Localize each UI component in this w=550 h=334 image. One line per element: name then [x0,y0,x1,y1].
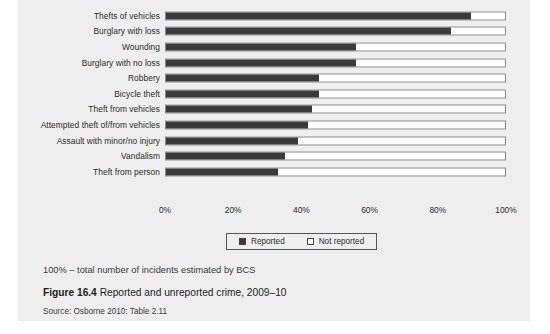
bar-row: Burglary with no loss [18,55,530,71]
bar-not-reported [165,105,506,114]
x-axis-tick-label: 20% [225,205,242,215]
bar-not-reported [165,167,506,176]
bar-reported [166,121,308,128]
bar-row: Vandalism [18,148,530,164]
bar-reported [166,137,298,144]
legend-item-not-reported: Not reported [307,237,365,246]
legend-item-reported: Reported [239,237,285,246]
category-label: Burglary with loss [93,26,160,36]
category-label: Theft from person [93,167,160,177]
x-axis-tick-label: 0% [159,205,171,215]
figure-panel: Thefts of vehiclesBurglary with lossWoun… [18,0,530,321]
figure-number: Figure 16.4 [43,287,97,298]
bar-row: Thefts of vehicles [18,8,530,24]
bar-reported [166,153,285,160]
figure-caption: Figure 16.4 Reported and unreported crim… [43,287,287,298]
x-axis-tick-label: 60% [361,205,378,215]
legend-swatch-not-reported [307,238,314,245]
bar-reported [166,75,319,82]
figure-page: Thefts of vehiclesBurglary with lossWoun… [0,0,550,334]
category-label: Theft from vehicles [88,104,160,114]
bar-not-reported [165,152,506,161]
bar-row: Theft from vehicles [18,102,530,118]
category-label: Attempted theft of/from vehicles [41,120,160,130]
category-label: Wounding [122,42,160,52]
bar-row: Robbery [18,70,530,86]
x-axis: 0%20%40%60%80%100% [165,205,506,219]
bar-reported [166,28,451,35]
bar-reported [166,106,312,113]
bar-reported [166,168,278,175]
bar-reported [166,59,356,66]
category-label: Thefts of vehicles [94,11,160,21]
chart-legend: Reported Not reported [226,233,377,250]
bar-not-reported [165,120,506,129]
x-axis-tick-label: 100% [495,205,516,215]
bar-row: Burglary with loss [18,24,530,40]
bar-reported [166,12,471,19]
figure-caption-text: Reported and unreported crime, 2009–10 [97,287,287,298]
bar-row: Wounding [18,39,530,55]
category-label: Burglary with no loss [82,58,160,68]
bar-not-reported [165,136,506,145]
category-label: Bicycle theft [114,89,160,99]
x-axis-tick-label: 80% [429,205,446,215]
category-label: Vandalism [121,151,160,161]
legend-label-reported: Reported [251,237,285,246]
bar-row: Theft from person [18,164,530,180]
legend-label-not-reported: Not reported [319,237,365,246]
bar-not-reported [165,11,506,20]
category-label: Assault with minor/no injury [57,136,160,146]
bar-not-reported [165,74,506,83]
bar-row: Bicycle theft [18,86,530,102]
bar-reported [166,43,356,50]
legend-swatch-reported [239,238,246,245]
bar-row: Assault with minor/no injury [18,133,530,149]
bar-not-reported [165,27,506,36]
bar-row: Attempted theft of/from vehicles [18,117,530,133]
x-axis-tick-label: 40% [293,205,310,215]
bar-not-reported [165,89,506,98]
stacked-bar-chart: Thefts of vehiclesBurglary with lossWoun… [18,8,530,226]
bar-not-reported [165,42,506,51]
figure-source: Source: Osborne 2010: Table 2.11 [43,307,167,316]
figure-note: 100% – total number of incidents estimat… [43,265,255,275]
bar-reported [166,90,319,97]
bar-not-reported [165,58,506,67]
category-label: Robbery [128,73,160,83]
